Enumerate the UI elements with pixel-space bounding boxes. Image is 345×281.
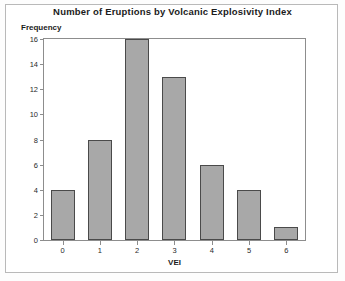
x-axis-label: VEI xyxy=(43,258,306,267)
bar xyxy=(237,190,261,240)
x-axis-tick: 3 xyxy=(156,241,193,257)
x-axis-tick: 4 xyxy=(193,241,230,257)
bar xyxy=(200,165,224,240)
bar xyxy=(162,77,186,240)
x-tick-mark xyxy=(249,241,250,245)
x-tick-label: 3 xyxy=(156,246,193,255)
x-tick-label: 2 xyxy=(119,246,156,255)
y-tick-label: 10 xyxy=(30,110,38,119)
y-tick-label: 8 xyxy=(34,135,38,144)
x-tick-mark xyxy=(100,241,101,245)
y-tick-label: 14 xyxy=(30,60,38,69)
bar-slot xyxy=(156,39,193,240)
x-tick-label: 1 xyxy=(81,246,118,255)
y-tick-label: 0 xyxy=(34,236,38,245)
x-axis-tick: 1 xyxy=(81,241,118,257)
chart-title: Number of Eruptions by Volcanic Explosiv… xyxy=(0,6,345,17)
x-tick-mark xyxy=(212,241,213,245)
x-tick-mark xyxy=(174,241,175,245)
x-axis-tick: 5 xyxy=(230,241,267,257)
y-axis-label: Frequency xyxy=(21,23,61,32)
y-tick-label: 12 xyxy=(30,85,38,94)
x-tick-mark xyxy=(63,241,64,245)
y-tick-label: 6 xyxy=(34,160,38,169)
x-tick-mark xyxy=(286,241,287,245)
x-tick-mark xyxy=(137,241,138,245)
y-tick-label: 2 xyxy=(34,210,38,219)
plot-area: 0246810121416 xyxy=(44,39,305,240)
x-tick-label: 0 xyxy=(44,246,81,255)
x-tick-label: 6 xyxy=(268,246,305,255)
x-axis-ticks: 0123456 xyxy=(44,241,305,257)
bar-slot xyxy=(193,39,230,240)
x-axis-tick: 2 xyxy=(119,241,156,257)
bar xyxy=(274,227,298,240)
bar xyxy=(88,140,112,241)
y-tick-label: 16 xyxy=(30,35,38,44)
bar xyxy=(125,39,149,240)
y-tick-label: 4 xyxy=(34,185,38,194)
chart-figure: Number of Eruptions by Volcanic Explosiv… xyxy=(0,0,345,281)
bar-slot xyxy=(119,39,156,240)
bar xyxy=(51,190,75,240)
bar-series xyxy=(44,39,305,240)
bar-slot xyxy=(268,39,305,240)
x-tick-label: 5 xyxy=(230,246,267,255)
x-axis-tick: 6 xyxy=(268,241,305,257)
x-tick-label: 4 xyxy=(193,246,230,255)
bar-slot xyxy=(81,39,118,240)
bar-slot xyxy=(230,39,267,240)
bar-slot xyxy=(44,39,81,240)
x-axis-tick: 0 xyxy=(44,241,81,257)
